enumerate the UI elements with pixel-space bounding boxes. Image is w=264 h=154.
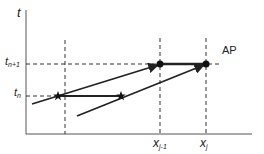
tick-label-tn1: tn+1 [5, 55, 20, 68]
tick-tn-sub: n [17, 92, 21, 99]
dot-marker-xj [203, 61, 210, 68]
tick-label-xj: xj [200, 136, 208, 150]
tick-label-tn: tn [14, 86, 21, 99]
dot-marker-xj-1 [157, 61, 164, 68]
tick-tn1-sub: n+1 [8, 61, 20, 68]
diagram-canvas [0, 0, 264, 154]
annotation-ap: AP [222, 44, 237, 56]
characteristics-diagram: t tn+1 tn xj-1 xj AP [0, 0, 264, 154]
characteristic-line-1 [32, 65, 158, 104]
tick-xj-sub: j [206, 143, 208, 150]
tick-xj-1-sub: j-1 [159, 143, 167, 150]
characteristic-line-2 [77, 65, 204, 116]
y-axis-label-text: t [17, 5, 21, 20]
y-axis-label: t [17, 5, 21, 20]
annotation-ap-text: AP [222, 44, 237, 56]
tick-label-xj-1: xj-1 [153, 136, 167, 150]
